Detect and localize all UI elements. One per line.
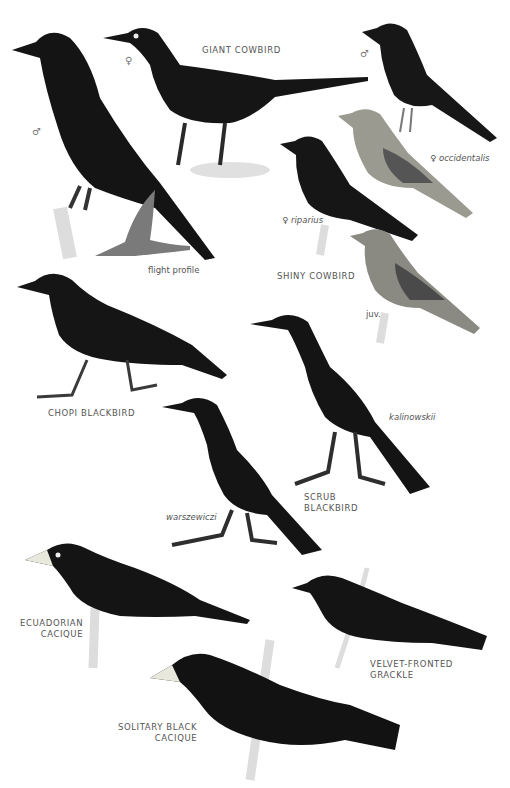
subspecies-label-kalinowskii: kalinowskii bbox=[389, 412, 435, 422]
subspecies-label-warszewiczi: warszewiczi bbox=[166, 512, 217, 522]
species-label-chopi-blackbird: CHOPI BLACKBIRD bbox=[48, 408, 135, 419]
species-label-solitary-black-cacique: SOLITARY BLACKCACIQUE bbox=[118, 722, 197, 744]
species-label-giant-cowbird: GIANT COWBIRD bbox=[202, 45, 281, 56]
species-label-scrub-blackbird: SCRUBBLACKBIRD bbox=[304, 492, 358, 514]
species-label-shiny-cowbird: SHINY COWBIRD bbox=[277, 271, 355, 282]
male-symbol: ♂ bbox=[32, 126, 41, 137]
scrub-blackbird-warszewiczi-illustration bbox=[162, 395, 327, 555]
solitary-black-cacique-illustration bbox=[150, 640, 405, 780]
chopi-blackbird-illustration bbox=[17, 265, 232, 400]
subspecies-label-riparius: ♀ riparius bbox=[282, 215, 323, 225]
subspecies-label-occidentalis: ♀ occidentalis bbox=[430, 153, 490, 163]
species-label-ecuadorian-cacique: ECUADORIANCACIQUE bbox=[20, 618, 83, 640]
male-symbol: ♂ bbox=[360, 48, 369, 59]
female-symbol: ♀ bbox=[125, 55, 132, 66]
flight-profile-illustration bbox=[95, 190, 195, 260]
